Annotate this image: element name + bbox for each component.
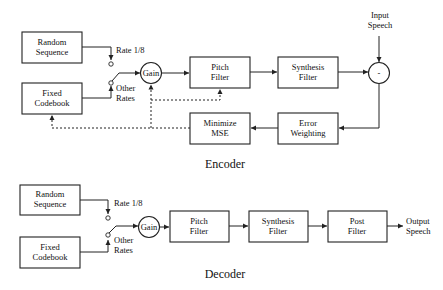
dec-rate-1-8-label: Rate 1/8 xyxy=(114,198,143,208)
dec-gain-label: Gain xyxy=(141,222,158,232)
dec-random-sequence-label-1: Random xyxy=(36,189,65,199)
dec-pitch-filter-label-1: Pitch xyxy=(190,216,208,226)
codec-diagram: Random Sequence Fixed Codebook Rate 1/8 … xyxy=(0,0,443,290)
enc-switch-contact-other xyxy=(109,81,113,85)
decoder-section: Random Sequence Fixed Codebook Rate 1/8 … xyxy=(20,185,431,281)
dec-post-filter-block: Post Filter xyxy=(328,211,387,242)
enc-switch-contact-rate18 xyxy=(109,62,113,66)
dec-post-filter-label-1: Post xyxy=(350,216,365,226)
decoder-title: Decoder xyxy=(205,267,246,281)
enc-minimize-mse-label-2: MSE xyxy=(211,128,228,138)
encoder-section: Random Sequence Fixed Codebook Rate 1/8 … xyxy=(22,10,393,171)
enc-pitch-filter-label-1: Pitch xyxy=(211,62,229,72)
enc-synthesis-filter-label-1: Synthesis xyxy=(292,62,325,72)
enc-synthesis-filter-block: Synthesis Filter xyxy=(278,57,338,88)
enc-other-rates-label-2: Rates xyxy=(116,93,135,103)
dec-output-speech-label-1: Output xyxy=(406,216,430,226)
dec-switch-contact-other xyxy=(106,233,110,237)
enc-fixed-codebook-label-2: Codebook xyxy=(35,98,71,108)
enc-other-rates-label-1: Other xyxy=(116,83,136,93)
enc-subtractor-sign: - xyxy=(378,68,381,78)
enc-input-speech-label-1: Input xyxy=(371,10,390,20)
enc-random-sequence-label-1: Random xyxy=(38,37,67,47)
dec-fixed-codebook-block: Fixed Codebook xyxy=(20,237,80,268)
dec-output-speech-label-2: Speech xyxy=(406,226,431,236)
enc-rate-1-8-label: Rate 1/8 xyxy=(116,45,145,55)
dec-random-sequence-block: Random Sequence xyxy=(20,185,80,215)
dec-switch-contact-rate18 xyxy=(106,216,110,220)
enc-synthesis-filter-label-2: Filter xyxy=(299,72,318,82)
enc-gain-node: Gain xyxy=(141,63,162,84)
dec-random-sequence-label-2: Sequence xyxy=(34,199,67,209)
encoder-title: Encoder xyxy=(205,157,245,171)
enc-pitch-filter-label-2: Filter xyxy=(211,72,230,82)
dec-other-rates-label-1: Other xyxy=(114,235,134,245)
enc-error-weighting-block: Error Weighting xyxy=(278,113,338,144)
enc-input-speech-label-2: Speech xyxy=(368,20,393,30)
enc-minimize-mse-label-1: Minimize xyxy=(203,118,236,128)
enc-error-weighting-label-2: Weighting xyxy=(290,128,326,138)
enc-minimize-mse-block: Minimize MSE xyxy=(190,113,250,144)
enc-gain-label: Gain xyxy=(143,68,160,78)
dec-fixed-codebook-label-1: Fixed xyxy=(40,242,60,252)
dec-other-rates-label-2: Rates xyxy=(114,245,133,255)
dec-synthesis-filter-label-2: Filter xyxy=(269,226,288,236)
dec-fixed-codebook-label-2: Codebook xyxy=(33,252,69,262)
enc-fixed-codebook-label-1: Fixed xyxy=(42,88,62,98)
enc-fixed-codebook-block: Fixed Codebook xyxy=(22,83,82,114)
enc-subtractor-node: - xyxy=(369,63,390,84)
enc-pitch-filter-block: Pitch Filter xyxy=(190,57,250,88)
enc-random-sequence-block: Random Sequence xyxy=(22,32,82,63)
dec-post-filter-label-2: Filter xyxy=(348,226,367,236)
dec-pitch-filter-block: Pitch Filter xyxy=(170,211,229,242)
dec-synthesis-filter-block: Synthesis Filter xyxy=(249,211,308,242)
dec-synthesis-filter-label-1: Synthesis xyxy=(262,216,295,226)
enc-error-weighting-label-1: Error xyxy=(299,118,317,128)
dec-gain-node: Gain xyxy=(139,217,160,238)
enc-random-sequence-label-2: Sequence xyxy=(36,47,69,57)
dec-pitch-filter-label-2: Filter xyxy=(190,226,209,236)
